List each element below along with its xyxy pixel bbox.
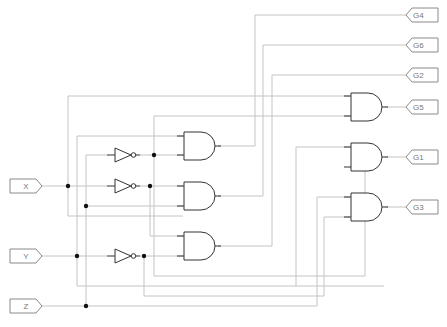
and-gates: [177, 93, 388, 260]
junction-dot: [66, 184, 70, 188]
input-port-z[interactable]: Z: [10, 299, 42, 313]
output-label-g6: G6: [413, 41, 424, 50]
input-label-z: Z: [24, 302, 29, 311]
not-gate-3[interactable]: [107, 249, 140, 263]
junction-dot: [142, 254, 146, 258]
junction-dot: [152, 153, 156, 157]
output-port-g2[interactable]: G2: [406, 68, 438, 82]
input-label-y: Y: [23, 252, 29, 261]
output-port-g5[interactable]: G5: [406, 100, 438, 114]
input-port-x[interactable]: X: [10, 179, 42, 193]
and-gate-5[interactable]: [344, 143, 388, 171]
junction-dot: [84, 304, 88, 308]
output-port-g1[interactable]: G1: [406, 150, 438, 164]
input-label-x: X: [23, 182, 29, 191]
and-gate-1[interactable]: [177, 132, 221, 160]
output-port-g3[interactable]: G3: [406, 200, 438, 214]
not-gate-2[interactable]: [107, 179, 140, 193]
output-port-g6[interactable]: G6: [406, 38, 438, 52]
junction-dot: [148, 184, 152, 188]
and-gate-6[interactable]: [344, 193, 388, 221]
output-label-g1: G1: [413, 153, 424, 162]
wire-and2-to-g6: [218, 45, 406, 196]
output-label-g4: G4: [413, 11, 424, 20]
output-label-g2: G2: [413, 71, 424, 80]
wire-and1-to-g4: [218, 15, 406, 146]
output-label-g5: G5: [413, 103, 424, 112]
output-ports: G4 G6 G2 G5 G1 G3: [406, 8, 438, 214]
input-port-y[interactable]: Y: [10, 249, 42, 263]
junctions: [66, 153, 156, 308]
output-label-g3: G3: [413, 203, 424, 212]
junction-dot: [84, 204, 88, 208]
and-gate-3[interactable]: [177, 232, 221, 260]
not-gate-1[interactable]: [107, 148, 140, 162]
junction-dot: [75, 254, 79, 258]
and-gate-2[interactable]: [177, 182, 221, 210]
input-ports: X Y Z: [10, 179, 42, 313]
and-gate-4[interactable]: [344, 93, 388, 121]
logic-circuit-diagram: X Y Z G4 G6 G2 G5 G1: [0, 0, 447, 327]
output-port-g4[interactable]: G4: [406, 8, 438, 22]
wire-z-trunk: [86, 155, 350, 306]
